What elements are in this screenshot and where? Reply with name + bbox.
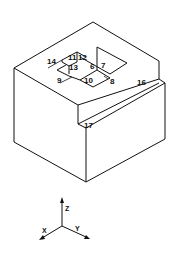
isometric-block-diagram: 14 11 12 13 6 7 9 10 8 16 17 Z X Y: [0, 0, 174, 261]
label-6: 6: [90, 62, 95, 71]
label-9: 9: [57, 76, 62, 85]
label-11: 11: [68, 53, 77, 62]
label-8: 8: [110, 77, 115, 86]
z-arrow-icon: [60, 197, 64, 203]
block-outline: [14, 22, 165, 182]
axis-triad: Z X Y: [39, 197, 90, 240]
axis-label-z: Z: [65, 205, 70, 212]
label-7: 7: [101, 61, 106, 70]
label-14: 14: [47, 57, 56, 66]
axis-label-x: X: [42, 227, 47, 234]
x-arrow-icon: [39, 235, 45, 240]
axis-label-y: Y: [75, 225, 80, 232]
label-10: 10: [84, 76, 93, 85]
label-12: 12: [78, 53, 87, 62]
label-16: 16: [137, 78, 146, 87]
label-17: 17: [84, 121, 93, 130]
label-13: 13: [69, 63, 78, 72]
